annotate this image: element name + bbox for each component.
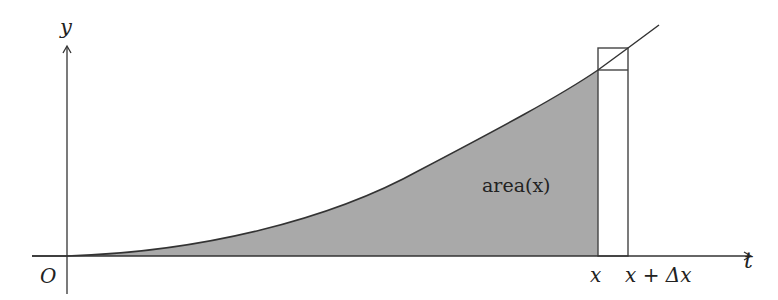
- area-label: area(x): [482, 174, 551, 196]
- increment-strip: [598, 48, 628, 256]
- x-tick-label: x: [590, 263, 601, 287]
- shaded-area-region: [67, 70, 598, 256]
- origin-label: O: [40, 264, 56, 288]
- area-diagram: y t O area(x) x x + Δx: [0, 0, 778, 300]
- x-plus-dx-tick-label: x + Δx: [625, 263, 691, 287]
- y-axis-label: y: [59, 15, 73, 39]
- t-axis-label: t: [744, 248, 753, 273]
